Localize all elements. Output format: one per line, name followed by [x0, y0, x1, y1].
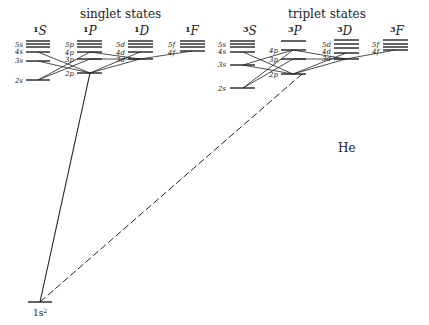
svg-text:5p: 5p [65, 41, 74, 49]
svg-text:3s: 3s [15, 57, 23, 65]
term-header-1D: 1D [134, 24, 150, 38]
levels-1S: 5s 4s 3s 2s [14, 41, 50, 85]
levels-1F: 5f 4f [167, 41, 205, 57]
term-header-3F: 3F [390, 24, 405, 38]
element-label: He [338, 141, 356, 155]
svg-text:5d: 5d [116, 41, 125, 49]
svg-text:3P: 3P [288, 24, 303, 38]
svg-text:3D: 3D [337, 24, 353, 38]
svg-text:2p: 2p [64, 70, 74, 78]
svg-text:4s: 4s [14, 48, 23, 56]
svg-text:4f: 4f [167, 49, 176, 57]
singlet-title: singlet states [80, 7, 161, 21]
triplet-intercombination-line [40, 74, 302, 302]
svg-text:4f: 4f [371, 48, 380, 56]
svg-text:1s2: 1s2 [33, 307, 47, 318]
ground-state-1s2: 1s2 [28, 302, 52, 318]
svg-text:2s: 2s [14, 77, 23, 85]
term-header-3D: 3D [337, 24, 353, 38]
svg-text:4s: 4s [217, 48, 226, 56]
svg-text:3s: 3s [218, 61, 226, 69]
svg-text:1P: 1P [83, 24, 98, 38]
levels-1P: 5p 4p 3p 2p [64, 41, 102, 78]
svg-text:5f: 5f [168, 41, 176, 49]
svg-text:3F: 3F [390, 24, 405, 38]
levels-3S: 5s 4s 3s 2s [217, 41, 255, 93]
levels-3D: 5d 4d 3d [321, 40, 359, 63]
svg-text:1D: 1D [134, 24, 150, 38]
singlet-resonance-line [40, 73, 90, 302]
helium-energy-level-diagram: singlet states triplet states 1S 1P 1D 1… [0, 0, 429, 325]
svg-text:2s: 2s [217, 85, 226, 93]
term-header-3P: 3P [288, 24, 303, 38]
svg-text:1S: 1S [33, 24, 47, 38]
triplet-title: triplet states [288, 7, 366, 21]
term-header-1F: 1F [185, 24, 200, 38]
svg-text:1F: 1F [185, 24, 200, 38]
svg-text:3S: 3S [243, 24, 257, 38]
svg-text:4p: 4p [268, 47, 278, 55]
term-header-1S: 1S [33, 24, 47, 38]
svg-text:3p: 3p [269, 56, 278, 64]
term-header-1P: 1P [83, 24, 98, 38]
term-header-3S: 3S [243, 24, 257, 38]
